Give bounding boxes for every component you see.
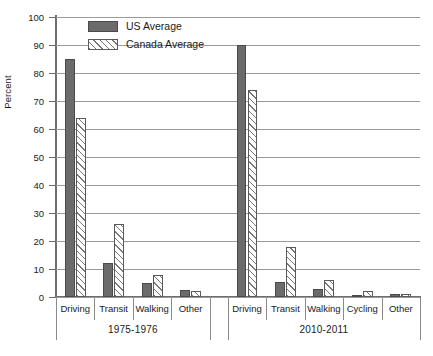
bar-chart: Percent 0102030405060708090100 DrivingTr… — [0, 0, 433, 356]
plot-area — [56, 17, 420, 297]
group-separator — [420, 298, 421, 340]
category-separator — [305, 298, 306, 320]
bar-us-walking-g0 — [142, 283, 152, 297]
y-tick-label: 10 — [0, 264, 44, 275]
category-separator — [94, 298, 95, 320]
group-separator — [228, 298, 229, 340]
category-label-other-g1: Other — [382, 298, 420, 320]
y-tick — [49, 241, 56, 242]
bar-us-cycling-g1 — [352, 295, 362, 297]
y-axis-title: Percent — [2, 52, 13, 132]
category-label-other-g0: Other — [171, 298, 209, 320]
bar-ca-other-g1 — [401, 294, 411, 297]
y-tick-label: 50 — [0, 152, 44, 163]
category-label-driving-g1: Driving — [228, 298, 266, 320]
category-label-transit-g0: Transit — [94, 298, 132, 320]
y-tick — [49, 45, 56, 46]
y-tick — [49, 157, 56, 158]
category-label-transit-g1: Transit — [266, 298, 304, 320]
group-label-0: 1975-1976 — [56, 320, 210, 340]
legend-item-us: US Average — [88, 18, 204, 34]
y-tick — [49, 269, 56, 270]
category-label-driving-g0: Driving — [56, 298, 94, 320]
bar-us-driving-g1 — [237, 45, 247, 297]
category-separator — [266, 298, 267, 320]
bar-ca-walking-g1 — [324, 280, 334, 297]
legend-item-canada: Canada Average — [88, 36, 204, 52]
y-tick-label: 20 — [0, 236, 44, 247]
y-tick-label: 70 — [0, 96, 44, 107]
y-tick — [49, 213, 56, 214]
bar-us-transit-g1 — [275, 282, 285, 297]
y-tick-label: 80 — [0, 68, 44, 79]
category-label-cycling-g1: Cycling — [343, 298, 381, 320]
y-tick — [49, 17, 56, 18]
legend-label-canada: Canada Average — [126, 38, 204, 50]
y-tick-label: 100 — [0, 12, 44, 23]
category-separator — [343, 298, 344, 320]
category-separator — [133, 298, 134, 320]
bar-ca-driving-g0 — [76, 118, 86, 297]
bar-us-other-g0 — [180, 290, 190, 297]
category-label-walking-g0: Walking — [133, 298, 171, 320]
legend: US Average Canada Average — [88, 18, 204, 54]
bar-ca-driving-g1 — [248, 90, 258, 297]
bar-us-transit-g0 — [103, 263, 113, 297]
legend-swatch-canada-icon — [88, 39, 118, 50]
bar-ca-other-g0 — [191, 291, 201, 297]
group-separator — [56, 298, 57, 340]
y-tick — [49, 129, 56, 130]
group-label-1: 2010-2011 — [228, 320, 420, 340]
y-tick — [49, 101, 56, 102]
group-axis: 1975-19762010-2011 — [56, 320, 420, 340]
legend-label-us: US Average — [126, 20, 182, 32]
y-tick-label: 90 — [0, 40, 44, 51]
y-tick — [49, 73, 56, 74]
bar-ca-walking-g0 — [153, 275, 163, 297]
y-tick — [49, 185, 56, 186]
bar-ca-transit-g0 — [114, 224, 124, 297]
category-separator — [382, 298, 383, 320]
y-tick-label: 30 — [0, 208, 44, 219]
category-axis: DrivingTransitWalkingOtherDrivingTransit… — [56, 298, 420, 320]
y-tick-label: 40 — [0, 180, 44, 191]
y-tick — [49, 297, 56, 298]
bar-us-driving-g0 — [65, 59, 75, 297]
bar-ca-transit-g1 — [286, 247, 296, 297]
category-separator — [171, 298, 172, 320]
group-separator — [210, 298, 211, 340]
y-tick-label: 0 — [0, 292, 44, 303]
bar-us-other-g1 — [390, 294, 400, 297]
category-label-walking-g1: Walking — [305, 298, 343, 320]
bar-us-walking-g1 — [313, 289, 323, 297]
bar-ca-cycling-g1 — [363, 291, 373, 297]
y-tick-label: 60 — [0, 124, 44, 135]
legend-swatch-us-icon — [88, 21, 118, 32]
